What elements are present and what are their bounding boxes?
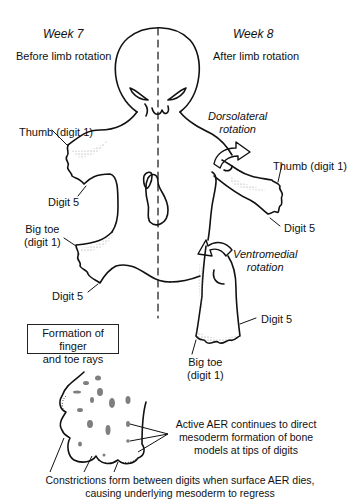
week8-heading: Week 8 (233, 28, 273, 41)
aer-active-note: Active AER continues to direct mesoderm … (172, 418, 320, 457)
aer-note-line2: mesoderm formation of bone (179, 431, 313, 443)
inset-title-line1: Formation of finger (42, 327, 104, 352)
label-right-thumb: Thumb (digit 1) (273, 160, 347, 173)
label-right-big-toe-line1: Big toe (188, 356, 222, 368)
label-right-foot-digit5: Digit 5 (261, 313, 292, 326)
aer-note-line1: Active AER continues to direct (176, 418, 317, 430)
aer-note-line3: models at tips of digits (194, 444, 298, 456)
dorsolateral-line1: Dorsolateral (208, 110, 267, 122)
label-left-foot-digit5: Digit 5 (52, 290, 83, 303)
constriction-note: Constrictions form between digits when s… (0, 474, 360, 500)
nose-mouth (152, 106, 168, 114)
ventromedial-line2: rotation (247, 261, 284, 273)
heart-bulge (146, 175, 168, 225)
body-right (208, 172, 216, 240)
inset-title-box: Formation of finger and toe rays (27, 324, 119, 354)
week7-heading: Week 7 (43, 28, 83, 41)
label-left-big-toe: Big toe (digit 1) (24, 223, 61, 249)
left-hand-week7 (66, 145, 118, 232)
label-right-big-toe-line2: (digit 1) (187, 369, 224, 381)
week8-subtitle: After limb rotation (213, 50, 299, 63)
label-right-big-toe: Big toe (digit 1) (187, 356, 224, 382)
left-eye (130, 88, 148, 100)
label-left-big-toe-line1: Big toe (25, 223, 59, 235)
ventromedial-line1: Ventromedial (233, 248, 297, 260)
left-foot-week7 (76, 232, 170, 283)
dorsolateral-line2: rotation (219, 123, 256, 135)
constriction-note-line1: Constrictions form between digits when s… (45, 474, 314, 486)
right-eye (168, 88, 186, 100)
inset-title-line2: and toe rays (43, 353, 104, 365)
dorsolateral-rotation-label: Dorsolateral rotation (208, 110, 267, 136)
ventromedial-rotation-label: Ventromedial rotation (233, 248, 297, 274)
label-left-hand-digit5: Digit 5 (48, 196, 79, 209)
label-left-thumb: Thumb (digit 1) (19, 126, 93, 139)
constriction-note-line2: causing underlying mesoderm to regress (85, 487, 275, 499)
label-left-big-toe-line2: (digit 1) (24, 236, 61, 248)
digit-ray-condensations (73, 376, 131, 457)
ventromedial-arrow (198, 240, 232, 256)
week7-subtitle: Before limb rotation (16, 50, 111, 63)
inset-developing-hand (60, 372, 146, 464)
embryo-head (115, 28, 199, 112)
label-right-hand-digit5: Digit 5 (284, 222, 315, 235)
